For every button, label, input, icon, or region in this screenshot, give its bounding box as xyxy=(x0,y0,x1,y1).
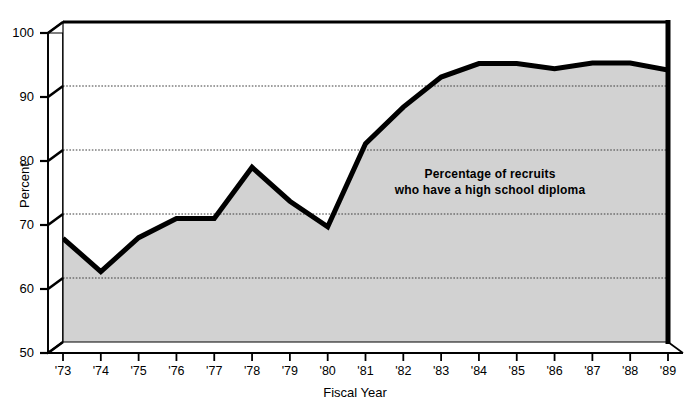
x-axis-tick-label: '73 xyxy=(43,365,83,378)
x-axis-title: Fiscal Year xyxy=(255,386,455,399)
x-axis-tick-label: '84 xyxy=(459,365,499,378)
y-axis-title: Percent xyxy=(18,163,31,208)
x-axis-tick-label: '83 xyxy=(421,365,461,378)
y-axis-tick-label: 100 xyxy=(4,26,34,39)
x-axis-tick-label: '76 xyxy=(156,365,196,378)
annotation-line-1: Percentage of recruits xyxy=(360,166,620,182)
x-axis-tick-label: '78 xyxy=(232,365,272,378)
y-axis-tick-label: 70 xyxy=(4,218,34,231)
x-axis-tick-label: '75 xyxy=(119,365,159,378)
chart-container: 5060708090100 '73'74'75'76'77'78'79'80'8… xyxy=(0,0,684,419)
x-axis-tick-label: '79 xyxy=(270,365,310,378)
x-axis-tick-label: '89 xyxy=(648,365,684,378)
chart-canvas xyxy=(0,0,684,419)
x-axis-tick-label: '88 xyxy=(610,365,650,378)
x-axis xyxy=(48,353,683,361)
x-axis-tick-label: '85 xyxy=(497,365,537,378)
x-axis-tick-label: '77 xyxy=(194,365,234,378)
x-axis-tick-label: '87 xyxy=(572,365,612,378)
series-annotation: Percentage of recruits who have a high s… xyxy=(360,166,620,198)
x-axis-tick-label: '80 xyxy=(308,365,348,378)
x-axis-ticks xyxy=(63,353,668,361)
annotation-line-2: who have a high school diploma xyxy=(360,182,620,198)
x-axis-tick-label: '86 xyxy=(535,365,575,378)
y-axis-tick-label: 50 xyxy=(4,346,34,359)
chart-floor-bevel xyxy=(48,342,683,353)
x-axis-tick-label: '82 xyxy=(383,365,423,378)
x-axis-tick-label: '81 xyxy=(346,365,386,378)
x-axis-tick-label: '74 xyxy=(81,365,121,378)
y-axis-tick-label: 90 xyxy=(4,90,34,103)
y-axis-tick-label: 60 xyxy=(4,282,34,295)
